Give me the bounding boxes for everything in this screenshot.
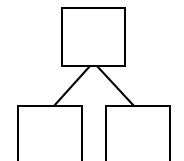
edge-root-left [54,66,90,106]
edge-root-right [97,66,134,106]
left-child-node [18,106,82,161]
tree-diagram [0,0,184,161]
right-child-node [106,106,170,161]
root-node [62,8,125,66]
